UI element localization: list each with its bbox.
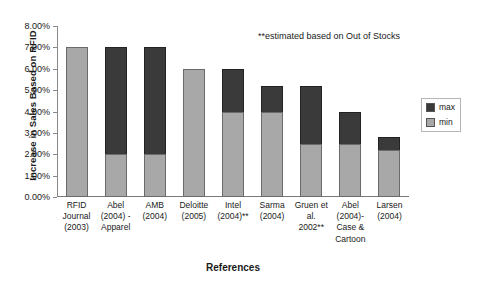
x-axis-label: AMB(2004): [135, 200, 174, 245]
plot-area: 0.00%1.00%2.00%3.00%4.00%5.00%6.00%7.00%…: [57, 26, 409, 197]
y-axis-tick-label: 8.00%: [24, 21, 50, 31]
x-axis-label-line: Gruen et: [293, 200, 330, 211]
x-axis-label-line: Larsen: [371, 200, 408, 211]
x-axis-label-line: Deloitte: [175, 200, 212, 211]
x-axis-label: Abel(2004)-Case &Cartoon: [331, 200, 370, 245]
chart-annotation: **estimated based on Out of Stocks: [258, 31, 400, 41]
x-axis-label-line: (2004): [136, 211, 173, 222]
x-axis-label-line: Apparel: [97, 222, 134, 233]
bar-segment-min: [300, 144, 322, 197]
bar-segment-max: [144, 47, 166, 154]
x-axis-label: Intel(2004)**: [213, 200, 252, 245]
legend-swatch-max: [426, 103, 435, 112]
bar[interactable]: [66, 47, 88, 197]
bar-segment-min: [339, 144, 361, 197]
x-axis-label: Gruen etal.2002**: [292, 200, 331, 245]
bar-slot: [370, 26, 409, 197]
x-axis-label-line: (2004): [371, 211, 408, 222]
x-axis-label-line: (2005): [175, 211, 212, 222]
bar-slot: [57, 26, 96, 197]
bar-chart: Increase in Sales Based on RFID 0.00%1.0…: [0, 0, 483, 284]
x-axis-label-line: al.: [293, 211, 330, 222]
y-axis-tick-label: 0.00%: [24, 192, 50, 202]
x-axis-label-line: Journal: [58, 211, 95, 222]
bar[interactable]: [261, 86, 283, 197]
y-axis-tick: [53, 197, 57, 198]
x-axis-label: Sarma(2004): [253, 200, 292, 245]
x-axis-label: RFIDJournal(2003): [57, 200, 96, 245]
bar-segment-min: [105, 154, 127, 197]
y-axis-tick-label: 1.00%: [24, 171, 50, 181]
bar-segment-min: [66, 47, 88, 197]
bar-slot: [96, 26, 135, 197]
legend-swatch-min: [426, 118, 435, 127]
bar[interactable]: [222, 69, 244, 197]
x-axis-label-line: (2004): [254, 211, 291, 222]
legend-item[interactable]: max: [426, 103, 455, 112]
x-axis-label-line: RFID: [58, 200, 95, 211]
bar-segment-max: [300, 86, 322, 144]
x-axis-label-line: (2004)-: [332, 211, 369, 222]
bar-segment-min: [222, 112, 244, 198]
y-axis-tick-label: 3.00%: [24, 128, 50, 138]
legend-label: max: [439, 103, 455, 112]
x-axis-label-line: Cartoon: [332, 234, 369, 245]
y-axis-tick-label: 6.00%: [24, 64, 50, 74]
x-axis-label-line: 2002**: [293, 222, 330, 233]
bar-group: [57, 26, 409, 197]
bar-slot: [135, 26, 174, 197]
x-axis-label-line: Sarma: [254, 200, 291, 211]
bar-slot: [174, 26, 213, 197]
bar[interactable]: [378, 137, 400, 197]
bar-segment-max: [222, 69, 244, 112]
y-axis-tick-label: 2.00%: [24, 149, 50, 159]
x-axis-label: Larsen(2004): [370, 200, 409, 245]
bar-segment-min: [261, 112, 283, 198]
x-axis-label-line: (2004) -: [97, 211, 134, 222]
bar-segment-max: [378, 137, 400, 150]
x-axis-label-line: AMB: [136, 200, 173, 211]
bar[interactable]: [339, 112, 361, 198]
bar[interactable]: [144, 47, 166, 197]
x-axis-label-line: Case &: [332, 222, 369, 233]
x-axis-label-line: (2003): [58, 222, 95, 233]
x-axis-labels: RFIDJournal(2003)Abel(2004) -ApparelAMB(…: [57, 200, 409, 245]
bar[interactable]: [183, 69, 205, 197]
x-axis-label-line: Abel: [332, 200, 369, 211]
bar-segment-min: [183, 69, 205, 197]
x-axis-label-line: (2004)**: [214, 211, 251, 222]
x-axis-label-line: Abel: [97, 200, 134, 211]
bar[interactable]: [105, 47, 127, 197]
x-axis-label: Deloitte(2005): [174, 200, 213, 245]
y-axis-tick-label: 4.00%: [24, 107, 50, 117]
bar-segment-max: [339, 112, 361, 144]
y-axis-tick-label: 7.00%: [24, 42, 50, 52]
bar-slot: [253, 26, 292, 197]
y-axis-tick-label: 5.00%: [24, 85, 50, 95]
bar-segment-max: [105, 47, 127, 154]
bar-slot: [331, 26, 370, 197]
x-axis-label: Abel(2004) -Apparel: [96, 200, 135, 245]
x-axis-title: References: [57, 262, 409, 273]
legend-item[interactable]: min: [426, 118, 455, 127]
bar-segment-max: [261, 86, 283, 112]
bar-segment-min: [378, 150, 400, 197]
chart-legend: maxmin: [421, 98, 461, 132]
bar-segment-min: [144, 154, 166, 197]
legend-label: min: [439, 118, 453, 127]
x-axis-label-line: Intel: [214, 200, 251, 211]
bar-slot: [292, 26, 331, 197]
bar[interactable]: [300, 86, 322, 197]
bar-slot: [213, 26, 252, 197]
